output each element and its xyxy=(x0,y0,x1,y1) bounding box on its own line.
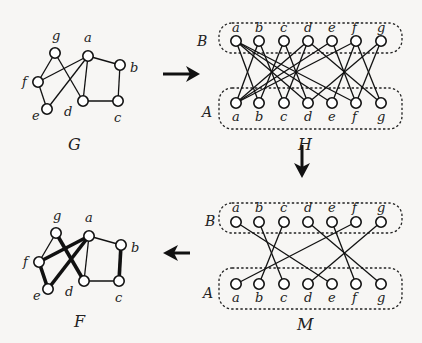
vertex-b xyxy=(116,240,126,250)
diagram-canvas: abcdefg aabbccddeeffgg aabbccddeeffgg ab… xyxy=(0,0,422,343)
m-side-a-label: A xyxy=(201,285,213,301)
vertex-label-d: d xyxy=(65,284,73,299)
vertex-label-c: c xyxy=(114,110,122,125)
graph-f-label: F xyxy=(73,312,86,331)
edge-Bf-Aa xyxy=(236,222,356,284)
vertex-label-b-d: d xyxy=(304,200,312,215)
vertex-b-g xyxy=(376,217,386,227)
vertex-label-f: f xyxy=(22,254,30,269)
vertex-label-a-g: g xyxy=(377,290,385,305)
vertex-f xyxy=(33,77,43,87)
vertex-label-b-d: d xyxy=(304,20,312,35)
vertex-b-c xyxy=(279,36,289,46)
graph-h-label: H xyxy=(297,135,313,154)
vertex-label-b-b: b xyxy=(255,200,263,215)
vertex-label-b-g: g xyxy=(377,20,385,35)
vertex-b-g xyxy=(376,36,386,46)
vertex-a xyxy=(83,51,93,61)
vertex-g xyxy=(51,228,61,238)
graph-m-label: M xyxy=(296,315,314,334)
vertex-label-b-f: f xyxy=(351,200,359,215)
h-side-a-label: A xyxy=(200,104,212,120)
vertex-label-b: b xyxy=(130,60,138,75)
vertex-label-c: c xyxy=(115,290,123,305)
vertex-label-e: e xyxy=(32,108,40,123)
vertex-label-a-g: g xyxy=(377,109,385,124)
vertex-label-a-e: e xyxy=(328,290,336,305)
graph-h: aabbccddeeffgg xyxy=(219,20,402,129)
vertex-label-a-b: b xyxy=(255,109,263,124)
vertex-label-a-f: f xyxy=(351,109,359,124)
vertex-label-f: f xyxy=(21,74,29,89)
vertex-label-b-e: e xyxy=(328,20,336,35)
arrow-left-icon xyxy=(163,245,190,261)
graph-g-label: G xyxy=(68,135,81,154)
vertex-c xyxy=(113,96,123,106)
vertex-label-b-a: a xyxy=(232,200,240,215)
h-side-b-label: B xyxy=(196,33,207,49)
vertex-c xyxy=(114,276,124,286)
vertex-label-a-d: d xyxy=(304,290,312,305)
vertex-label-a-b: b xyxy=(255,290,263,305)
vertex-label-d: d xyxy=(64,104,72,119)
vertex-d xyxy=(78,96,88,106)
vertex-a-d xyxy=(303,279,313,289)
vertex-a-a xyxy=(231,98,241,108)
graph-g: abcdefg xyxy=(21,28,138,125)
vertex-a-d xyxy=(303,98,313,108)
vertex-a-g xyxy=(376,279,386,289)
vertex-label-g: g xyxy=(53,208,61,223)
vertex-a-g xyxy=(376,98,386,108)
graph-f: abcdefg xyxy=(22,208,139,305)
vertex-label-a: a xyxy=(84,30,92,45)
vertex-a-c xyxy=(279,98,289,108)
vertex-b-f xyxy=(351,217,361,227)
vertex-b-e xyxy=(327,217,337,227)
vertex-label-b-b: b xyxy=(255,20,263,35)
vertex-label-a-c: c xyxy=(280,109,288,124)
vertex-label-e: e xyxy=(33,288,41,303)
vertex-label-a-f: f xyxy=(351,290,359,305)
vertex-a-e xyxy=(327,279,337,289)
vertex-a-b xyxy=(254,98,264,108)
graph-m: aabbccddeeffgg xyxy=(219,200,402,309)
vertex-b-b xyxy=(254,36,264,46)
vertex-e xyxy=(42,104,52,114)
vertex-b-a xyxy=(231,36,241,46)
m-side-b-label: B xyxy=(204,213,215,229)
vertex-b-d xyxy=(303,217,313,227)
vertex-a-f xyxy=(351,279,361,289)
vertex-label-a-c: c xyxy=(280,290,288,305)
vertex-label-b: b xyxy=(131,240,139,255)
vertex-a-f xyxy=(351,98,361,108)
vertex-label-b-f: f xyxy=(351,20,359,35)
vertex-a xyxy=(84,231,94,241)
vertex-label-a-d: d xyxy=(304,109,312,124)
vertex-label-g: g xyxy=(52,28,60,43)
vertex-label-b-a: a xyxy=(232,20,240,35)
vertex-g xyxy=(50,48,60,58)
vertex-b-c xyxy=(279,217,289,227)
vertex-label-b-c: c xyxy=(280,200,288,215)
vertex-f xyxy=(34,257,44,267)
vertex-d xyxy=(79,276,89,286)
vertex-label-b-e: e xyxy=(328,200,336,215)
vertex-label-b-c: c xyxy=(280,20,288,35)
vertex-b-d xyxy=(303,36,313,46)
vertex-a-b xyxy=(254,279,264,289)
vertex-a-a xyxy=(231,279,241,289)
edge-Ba-Ae xyxy=(236,222,332,284)
vertex-label-a-a: a xyxy=(232,109,240,124)
vertex-b xyxy=(115,60,125,70)
vertex-b-f xyxy=(351,36,361,46)
vertex-b-b xyxy=(254,217,264,227)
vertex-label-b-g: g xyxy=(377,200,385,215)
vertex-b-a xyxy=(231,217,241,227)
vertex-a-e xyxy=(327,98,337,108)
vertex-label-a: a xyxy=(85,210,93,225)
vertex-label-a-e: e xyxy=(328,109,336,124)
vertex-label-a-a: a xyxy=(232,290,240,305)
vertex-b-e xyxy=(327,36,337,46)
edge-a-d xyxy=(83,56,88,101)
vertex-a-c xyxy=(279,279,289,289)
